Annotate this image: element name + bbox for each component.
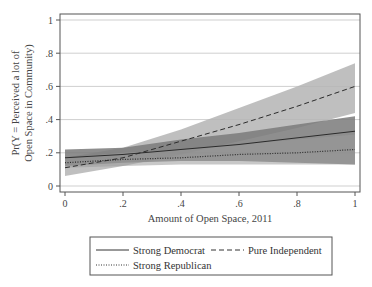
y-axis-title-line-2: Open Space in Community) [23,44,35,162]
x-tick-label: 0 [63,198,68,209]
y-tick-label: .4 [46,114,54,125]
x-axis-title: Amount of Open Space, 2011 [148,213,273,224]
legend-label-strong-democrat: Strong Democrat [133,245,205,256]
y-tick-label: 1 [48,15,53,26]
x-tick-label: .8 [293,198,301,209]
chart: 0.2.4.6.81 0.2.4.6.81 Amount of Open Spa… [0,0,372,287]
y-tick-label: 0 [48,181,53,192]
x-tick-label: .6 [235,198,243,209]
y-tick-label: .6 [46,81,54,92]
y-axis-title-line-1: Pr(Y = Perceived a lot of [10,50,22,155]
legend-label-pure-independent: Pure Independent [248,245,322,256]
x-tick-label: .2 [119,198,127,209]
x-tick-label: .4 [177,198,185,209]
y-tick-label: .2 [46,147,54,158]
legend: Strong Democrat Pure Independent Strong … [90,237,332,275]
y-tick-label: .8 [46,48,54,59]
x-tick-label: 1 [353,198,358,209]
y-axis-title: Pr(Y = Perceived a lot of Open Space in … [10,44,35,162]
legend-label-strong-republican: Strong Republican [133,260,212,271]
